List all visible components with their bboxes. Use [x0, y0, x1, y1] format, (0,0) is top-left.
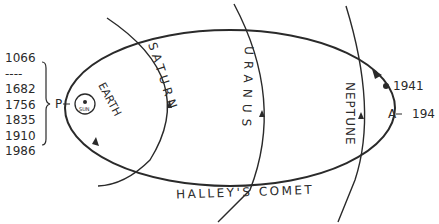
perihelion-label: P — [55, 97, 62, 111]
earth-label: EARTH — [95, 80, 124, 118]
comet-arrow-icon — [92, 137, 99, 146]
neptune-arrow-icon — [358, 112, 364, 119]
sun-icon — [83, 100, 87, 104]
comet-arrow-icon — [372, 69, 382, 79]
neptune-label: NEPTUNE — [343, 82, 357, 145]
saturn-label: SATURN — [145, 41, 181, 114]
position-year-label: 1941 — [393, 79, 424, 93]
years-brace — [42, 62, 50, 145]
comet-label: HALLEY'S COMET — [176, 183, 315, 202]
aphelion-label: A — [388, 107, 397, 121]
comet-position-dot — [383, 83, 389, 89]
sun-label: SUN — [79, 106, 90, 112]
uranus-label: URANUS — [239, 46, 256, 133]
aphelion-year-label: 194 — [412, 107, 435, 121]
orbit-diagram: SUN EARTH P 1941 A 194 SATURN URANUS NEP… — [0, 0, 439, 224]
